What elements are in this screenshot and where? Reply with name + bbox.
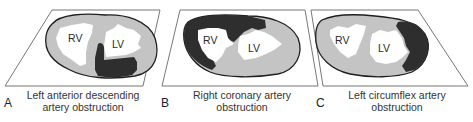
panel-c: RV LV C Left circumflex artery obstructi… (311, 10, 468, 113)
panel-c-rv-label: RV (335, 34, 349, 46)
panel-b-lv-label: LV (248, 42, 260, 54)
panel-c-heart: RV LV (316, 15, 429, 77)
panel-c-caption-line1: Left circumflex artery (348, 89, 446, 101)
panel-a-caption-line1: Left anterior descending (27, 89, 140, 101)
panel-a-letter: A (4, 96, 12, 110)
panel-c-caption-line2: obstruction (371, 101, 423, 113)
panel-c-letter: C (316, 96, 325, 110)
panel-a-lv-label: LV (112, 38, 124, 50)
panel-a-caption-line2: artery obstruction (42, 101, 123, 113)
panel-b-caption-line2: obstruction (216, 101, 268, 113)
panel-b: RV LV B Right coronary artery obstructio… (161, 10, 318, 113)
panel-b-rv-label: RV (203, 34, 217, 46)
panel-b-caption-line1: Right coronary artery (193, 89, 292, 101)
panel-b-letter: B (161, 96, 169, 110)
infarct-diagram: RV LV A Left anterior descending artery … (0, 0, 473, 122)
panel-a-rv-label: RV (68, 32, 82, 44)
panel-b-heart: RV LV (184, 15, 300, 77)
panel-c-lv-label: LV (378, 42, 390, 54)
panel-a: RV LV A Left anterior descending artery … (4, 10, 160, 113)
